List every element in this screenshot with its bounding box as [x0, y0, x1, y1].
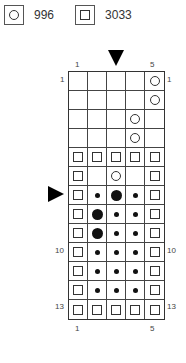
chart-cell — [126, 167, 145, 186]
chart-cell — [126, 243, 145, 262]
chart-cell — [145, 72, 164, 91]
small-dot-icon — [133, 231, 138, 236]
legend-item-circle: 996 — [4, 5, 54, 25]
chart-cell — [126, 110, 145, 129]
square-icon — [73, 228, 83, 238]
square-icon — [150, 190, 160, 200]
square-icon — [130, 305, 140, 315]
square-icon — [73, 190, 83, 200]
chart-cell — [69, 72, 88, 91]
circle-icon — [130, 133, 140, 143]
square-icon — [150, 228, 160, 238]
large-dot-icon — [92, 228, 103, 239]
chart-cell — [145, 167, 164, 186]
chart-cell — [126, 205, 145, 224]
square-icon — [73, 171, 83, 181]
chart-cell — [145, 91, 164, 110]
small-dot-icon — [95, 250, 100, 255]
small-dot-icon — [133, 212, 138, 217]
chart-cell — [107, 186, 126, 205]
circle-icon — [9, 10, 19, 20]
chart-cell — [88, 186, 107, 205]
col-label-top-1: 1 — [75, 60, 79, 69]
legend-label: 996 — [34, 8, 54, 22]
chart-cell — [69, 148, 88, 167]
chart-cell — [69, 91, 88, 110]
small-dot-icon — [114, 288, 119, 293]
chart-cell — [69, 110, 88, 129]
small-dot-icon — [133, 269, 138, 274]
row-label-left-1: 1 — [60, 75, 64, 84]
chart-cell — [88, 205, 107, 224]
circle-icon — [130, 114, 140, 124]
square-icon — [150, 209, 160, 219]
square-icon — [150, 247, 160, 257]
small-dot-icon — [114, 231, 119, 236]
chart-cell — [107, 262, 126, 281]
chart-cell — [145, 110, 164, 129]
col-label-bottom-1: 1 — [75, 324, 79, 333]
legend-item-square: 3033 — [75, 5, 132, 25]
chart-cell — [126, 91, 145, 110]
chart-cell — [88, 129, 107, 148]
chart-cell — [69, 186, 88, 205]
chart-cell — [107, 148, 126, 167]
square-icon — [150, 285, 160, 295]
chart-cell — [107, 129, 126, 148]
chart-cell — [126, 224, 145, 243]
chart-cell — [126, 186, 145, 205]
stitch-chart-grid — [68, 71, 165, 320]
chart-cell — [69, 167, 88, 186]
chart-cell — [88, 72, 107, 91]
square-icon — [111, 305, 121, 315]
chart-cell — [145, 243, 164, 262]
chart-cell — [88, 148, 107, 167]
square-icon — [73, 305, 83, 315]
chart-cell — [145, 281, 164, 300]
chart-cell — [69, 243, 88, 262]
legend-swatch-square — [75, 5, 95, 25]
square-icon — [150, 171, 160, 181]
chart-cell — [107, 300, 126, 319]
small-dot-icon — [133, 288, 138, 293]
chart-cell — [107, 110, 126, 129]
row-label-right-10: 10 — [167, 246, 176, 255]
chart-cell — [69, 129, 88, 148]
chart-cell — [126, 129, 145, 148]
square-icon — [73, 247, 83, 257]
col-label-bottom-5: 5 — [150, 324, 154, 333]
chart-cell — [88, 110, 107, 129]
col-label-top-5: 5 — [150, 60, 154, 69]
chart-cell — [126, 281, 145, 300]
chart-cell — [145, 262, 164, 281]
square-icon — [130, 152, 140, 162]
chart-cell — [145, 186, 164, 205]
row-label-right-13: 13 — [167, 302, 176, 311]
row-label-left-13: 13 — [55, 302, 64, 311]
circle-icon — [150, 95, 160, 105]
row-label-right-1: 1 — [167, 75, 171, 84]
square-icon — [80, 10, 90, 20]
legend: 996 3033 — [4, 5, 153, 25]
chart-cell — [88, 300, 107, 319]
large-dot-icon — [111, 190, 122, 201]
chart-cell — [126, 148, 145, 167]
small-dot-icon — [133, 250, 138, 255]
center-row-arrow-icon — [48, 186, 64, 202]
small-dot-icon — [95, 288, 100, 293]
small-dot-icon — [114, 212, 119, 217]
chart-cell — [107, 243, 126, 262]
chart-cell — [88, 243, 107, 262]
chart-cell — [88, 167, 107, 186]
chart-cell — [107, 167, 126, 186]
chart-cell — [88, 262, 107, 281]
center-column-arrow-icon — [108, 50, 124, 66]
circle-icon — [111, 171, 121, 181]
chart-cell — [69, 300, 88, 319]
square-icon — [73, 266, 83, 276]
chart-cell — [145, 148, 164, 167]
chart-cell — [69, 281, 88, 300]
circle-icon — [150, 76, 160, 86]
chart-cell — [69, 205, 88, 224]
chart-cell — [145, 224, 164, 243]
